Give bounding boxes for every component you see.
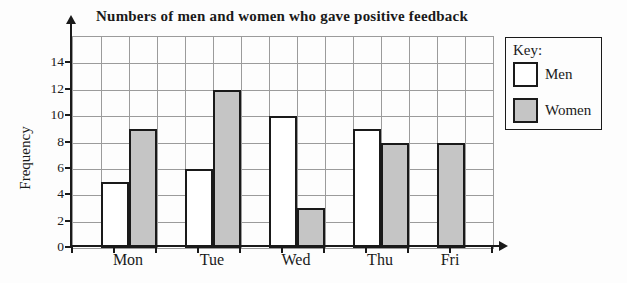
x-tick-label-wed: Wed [254, 251, 338, 269]
y-tick-label-12: 12 [0, 80, 64, 98]
women-swatch-icon [513, 98, 538, 123]
y-tick-mark [65, 114, 72, 116]
y-tick-label-0: 0 [0, 238, 64, 256]
legend-label-women: Women [545, 102, 591, 119]
bar-thu-women [381, 143, 409, 249]
men-swatch-icon [513, 62, 538, 87]
chart-title: Numbers of men and women who gave positi… [62, 8, 502, 25]
bar-tue-men [185, 169, 213, 248]
x-tick-mark [155, 247, 157, 253]
bar-fri-women [437, 143, 465, 249]
x-tick-mark [365, 247, 367, 253]
y-tick-label-8: 8 [0, 133, 64, 151]
y-tick-mark [65, 88, 72, 90]
gridline-horizontal [73, 63, 493, 64]
y-tick-mark [65, 61, 72, 63]
y-tick-mark [65, 141, 72, 143]
legend-key-box: Key: Men Women [505, 37, 602, 130]
bar-mon-men [101, 182, 129, 248]
x-tick-mark [449, 247, 451, 253]
plot-area [72, 36, 494, 249]
legend-entry-women: Women [506, 98, 601, 123]
legend-label-men: Men [545, 66, 573, 83]
y-tick-mark [65, 220, 72, 222]
y-tick-mark [65, 193, 72, 195]
x-tick-mark [113, 247, 115, 253]
bar-wed-men [269, 116, 297, 248]
bar-thu-men [353, 129, 381, 248]
x-tick-mark [197, 247, 199, 253]
legend-title: Key: [513, 42, 601, 59]
x-tick-mark [491, 247, 493, 253]
y-axis-line [70, 24, 72, 247]
y-tick-label-2: 2 [0, 212, 64, 230]
x-tick-label-fri: Fri [408, 251, 492, 269]
x-tick-mark [407, 247, 409, 253]
x-tick-label-mon: Mon [86, 251, 170, 269]
y-tick-label-4: 4 [0, 185, 64, 203]
legend-entry-men: Men [506, 62, 601, 87]
bar-wed-women [297, 208, 325, 248]
bar-mon-women [129, 129, 157, 248]
y-tick-label-10: 10 [0, 106, 64, 124]
x-tick-mark [71, 247, 73, 253]
y-tick-label-14: 14 [0, 53, 64, 71]
chart-canvas: Numbers of men and women who gave positi… [0, 0, 627, 283]
y-tick-mark [65, 167, 72, 169]
x-axis-line [70, 245, 500, 247]
x-tick-mark [323, 247, 325, 253]
y-tick-label-6: 6 [0, 159, 64, 177]
gridline-horizontal [73, 90, 493, 91]
x-axis-arrow-icon [499, 241, 508, 251]
bar-tue-women [213, 90, 241, 248]
x-tick-mark [281, 247, 283, 253]
x-tick-mark [239, 247, 241, 253]
y-axis-arrow-icon [66, 15, 76, 24]
x-tick-label-tue: Tue [170, 251, 254, 269]
